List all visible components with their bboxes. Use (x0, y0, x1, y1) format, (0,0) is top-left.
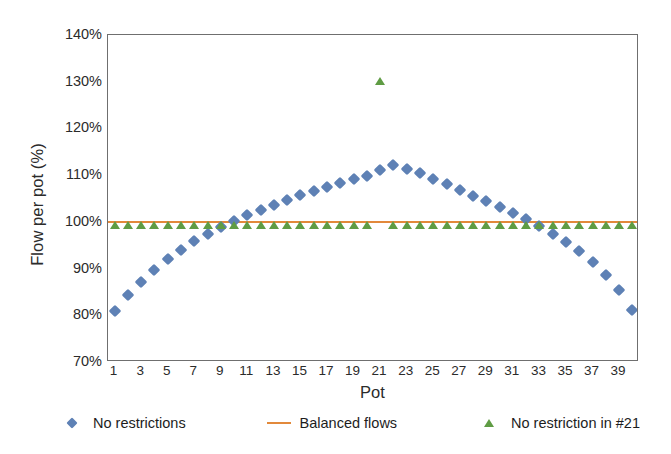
data-point (495, 221, 505, 229)
x-tick-label: 7 (178, 364, 208, 378)
data-point (614, 221, 624, 229)
data-point (307, 185, 320, 198)
data-point (282, 221, 292, 229)
x-tick-label: 5 (152, 364, 182, 378)
y-tick-label: 130% (48, 74, 102, 89)
data-point (415, 221, 425, 229)
data-point (453, 184, 466, 197)
y-tick-label: 90% (48, 261, 102, 276)
triangle-marker-icon (478, 417, 502, 429)
y-tick-label: 80% (48, 307, 102, 322)
y-tick-label: 140% (48, 27, 102, 42)
data-point (136, 221, 146, 229)
data-point (534, 221, 544, 229)
data-point (467, 189, 480, 202)
plot-area (107, 34, 638, 361)
x-tick-label: 21 (364, 364, 394, 378)
data-point (214, 221, 227, 234)
data-point (626, 303, 638, 316)
x-tick-label: 29 (470, 364, 500, 378)
data-point (322, 221, 332, 229)
data-point (480, 195, 493, 208)
data-point (148, 263, 161, 276)
legend-label: No restriction in #21 (511, 415, 640, 431)
data-point (163, 221, 173, 229)
data-point (481, 221, 491, 229)
data-point (507, 206, 520, 219)
line-marker-icon (267, 417, 291, 429)
y-axis-tick-labels: 140%130%120%110%100%90%80%70% (44, 0, 102, 454)
data-point (613, 284, 626, 297)
data-point (493, 201, 506, 214)
data-point (362, 221, 372, 229)
data-point (387, 159, 400, 172)
data-point (402, 221, 412, 229)
data-point (203, 221, 213, 229)
data-point (268, 198, 281, 211)
data-point (586, 256, 599, 269)
x-tick-label: 37 (577, 364, 607, 378)
data-point (360, 170, 373, 183)
y-tick-label: 70% (48, 354, 102, 369)
data-point (242, 221, 252, 229)
data-point (627, 221, 637, 229)
data-point (468, 221, 478, 229)
data-point (216, 221, 226, 229)
data-point (188, 235, 201, 248)
data-point (546, 227, 559, 240)
data-point (388, 221, 398, 229)
chart-legend: No restrictions Balanced flows No restri… (60, 415, 640, 431)
y-tick-label: 100% (48, 214, 102, 229)
legend-item-no-restriction-21[interactable]: No restriction in #21 (478, 415, 640, 431)
data-point (122, 288, 135, 301)
x-tick-label: 19 (338, 364, 368, 378)
data-point (561, 221, 571, 229)
data-point (508, 221, 518, 229)
data-point (521, 221, 531, 229)
data-point (349, 221, 359, 229)
data-point (374, 163, 387, 176)
x-tick-label: 33 (523, 364, 553, 378)
x-axis-tick-labels: 13579111315171921232527293133353739 (107, 364, 638, 384)
data-point (269, 221, 279, 229)
x-tick-label: 9 (205, 364, 235, 378)
data-point (414, 167, 427, 180)
data-point (135, 275, 148, 288)
x-tick-label: 13 (258, 364, 288, 378)
data-point (428, 221, 438, 229)
data-point (108, 304, 121, 317)
data-point (241, 209, 254, 222)
data-point (110, 221, 120, 229)
x-tick-label: 39 (603, 364, 633, 378)
data-point (149, 221, 159, 229)
y-tick-label: 120% (48, 120, 102, 135)
data-point (560, 236, 573, 249)
data-point (455, 221, 465, 229)
data-point (442, 221, 452, 229)
data-point (254, 203, 267, 216)
data-point (294, 189, 307, 202)
data-point (440, 178, 453, 191)
x-tick-label: 35 (550, 364, 580, 378)
data-point (588, 221, 598, 229)
data-point (599, 268, 612, 281)
data-point (309, 221, 319, 229)
data-series-layer (108, 35, 637, 360)
x-tick-label: 15 (284, 364, 314, 378)
x-tick-label: 23 (391, 364, 421, 378)
data-point (281, 194, 294, 207)
data-point (400, 162, 413, 175)
legend-item-balanced-flows[interactable]: Balanced flows (267, 415, 398, 431)
x-axis-title: Pot (107, 383, 638, 402)
data-point (123, 221, 133, 229)
data-point (573, 245, 586, 258)
x-tick-label: 11 (231, 364, 261, 378)
data-point (161, 253, 174, 266)
x-tick-label: 27 (444, 364, 474, 378)
legend-label: No restrictions (93, 415, 186, 431)
legend-item-no-restrictions[interactable]: No restrictions (60, 415, 186, 431)
legend-label: Balanced flows (300, 415, 398, 431)
x-tick-label: 3 (125, 364, 155, 378)
data-point (201, 228, 214, 241)
diamond-marker-icon (60, 417, 84, 429)
